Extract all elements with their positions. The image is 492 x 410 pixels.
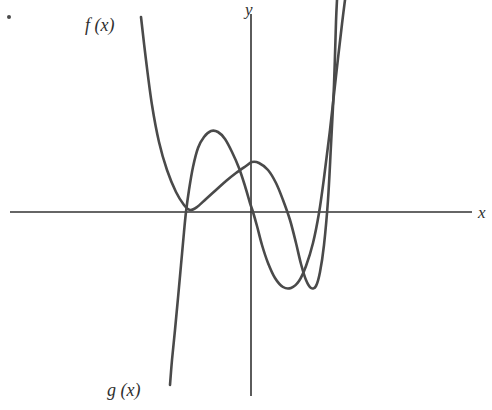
curve-label-g: g (x) [107,381,140,399]
function-graph-figure: f (x) g (x) y x [0,0,492,410]
curve-label-f: f (x) [85,16,114,34]
y-axis-label: y [245,1,253,18]
curves [141,0,345,385]
axes [10,14,472,396]
curve-g-of-x [170,0,345,385]
curve-f-of-x [141,0,337,289]
plot-canvas [0,0,492,410]
x-axis-label: x [478,204,486,221]
